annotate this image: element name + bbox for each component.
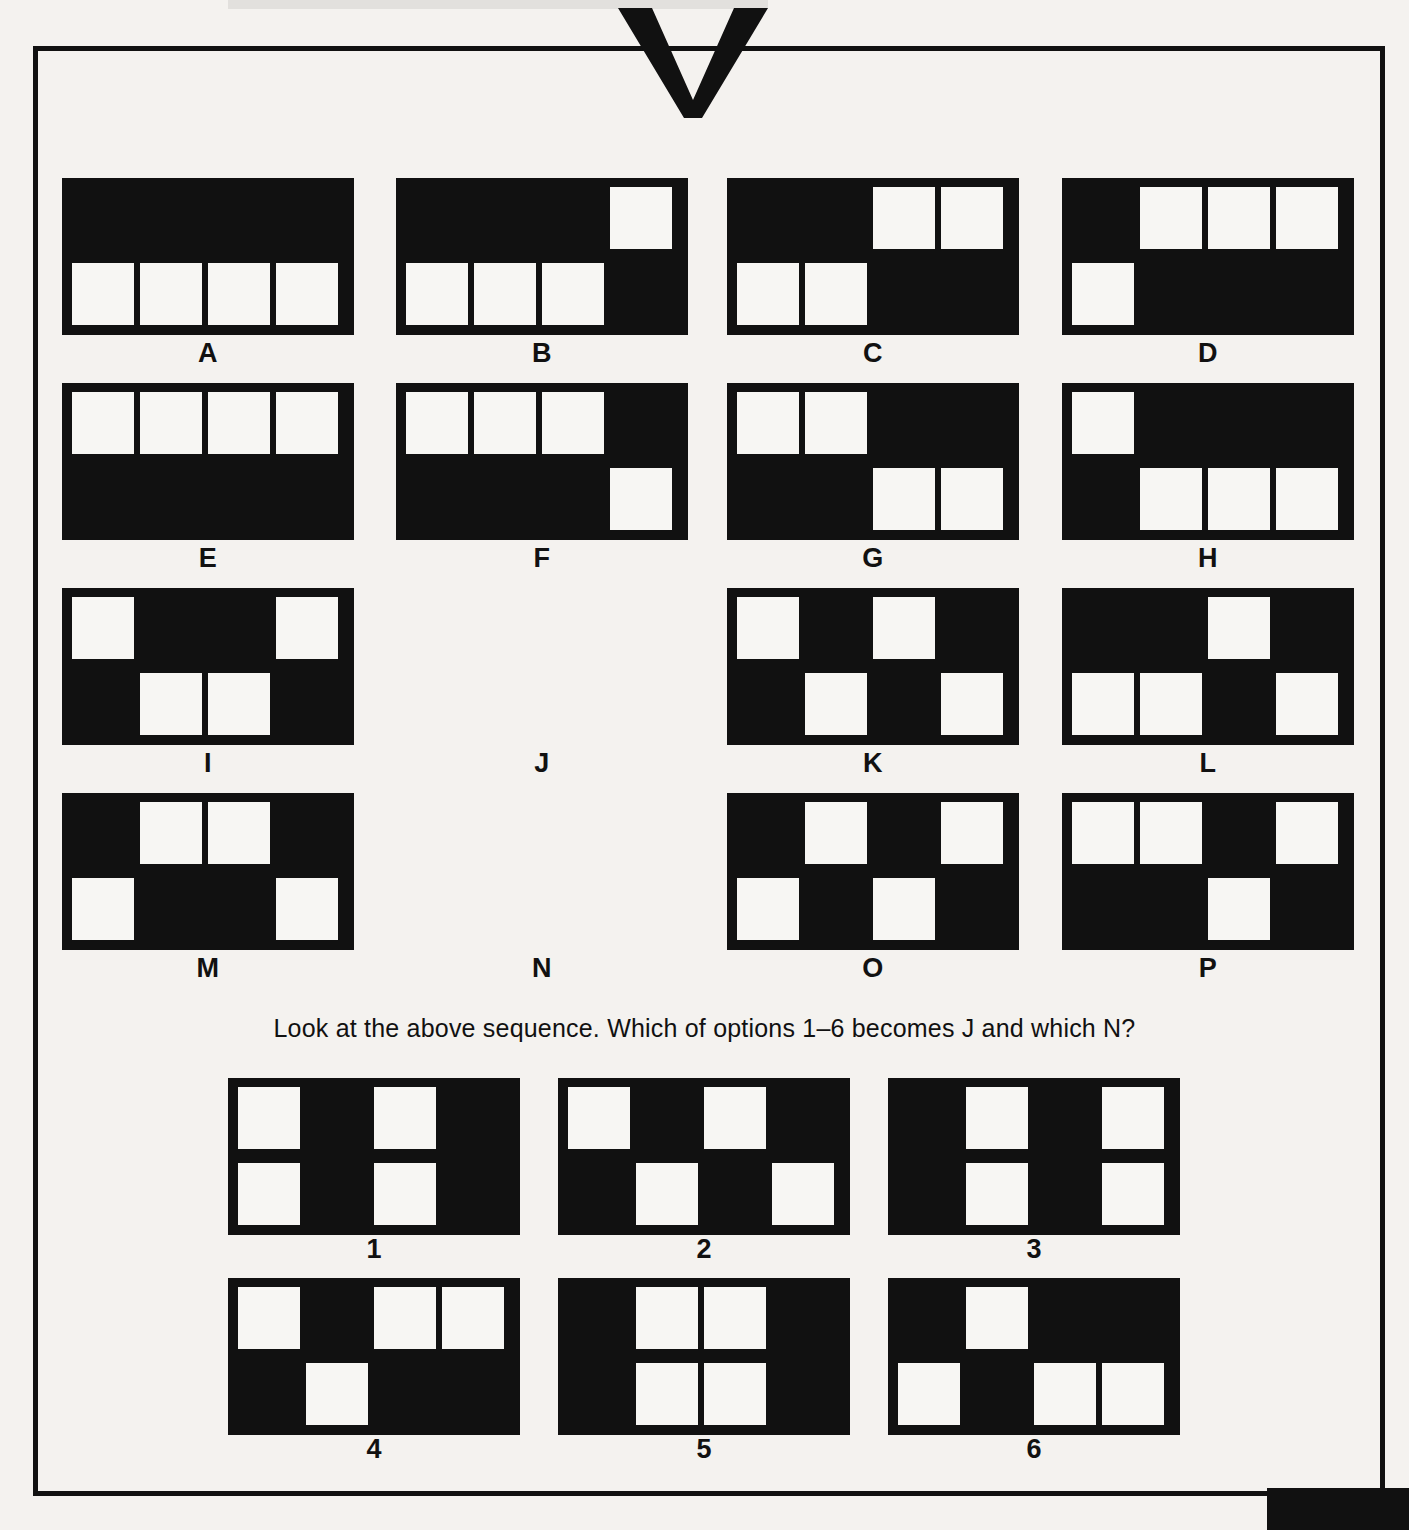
sequence-item-o: O xyxy=(727,793,1022,998)
sequence-k-panel xyxy=(727,588,1019,745)
option-item-6[interactable]: 6 xyxy=(888,1278,1180,1478)
sequence-label-f: F xyxy=(396,543,688,574)
cell-r2-c2 xyxy=(140,263,202,325)
puzzle-content: ABCDEFGHIJKLMNOP Look at the above seque… xyxy=(0,0,1409,1530)
question-text: Look at the above sequence. Which of opt… xyxy=(0,1014,1409,1043)
sequence-item-f: F xyxy=(396,383,691,588)
cell-r2-c4 xyxy=(276,263,338,325)
sequence-label-o: O xyxy=(727,953,1019,984)
cell-r2-c3 xyxy=(1034,1363,1096,1425)
cell-r2-c4 xyxy=(941,468,1003,530)
option-item-1[interactable]: 1 xyxy=(228,1078,520,1278)
sequence-f-panel xyxy=(396,383,688,540)
cell-r2-c3 xyxy=(1208,878,1270,940)
cell-r1-c4 xyxy=(941,802,1003,864)
cell-r1-c1 xyxy=(238,1287,300,1349)
cell-r2-c2 xyxy=(805,263,867,325)
cell-r2-c3 xyxy=(873,468,935,530)
sequence-o-panel xyxy=(727,793,1019,950)
sequence-item-p: P xyxy=(1062,793,1357,998)
cell-r1-c2 xyxy=(805,802,867,864)
sequence-item-d: D xyxy=(1062,178,1357,383)
cell-r2-c3 xyxy=(374,1163,436,1225)
option-2-panel xyxy=(558,1078,850,1235)
sequence-item-b: B xyxy=(396,178,691,383)
cell-r1-c4 xyxy=(1276,802,1338,864)
option-label-1: 1 xyxy=(228,1234,520,1265)
option-item-4[interactable]: 4 xyxy=(228,1278,520,1478)
cell-r1-c1 xyxy=(1072,392,1134,454)
cell-r1-c3 xyxy=(208,392,270,454)
sequence-item-m: M xyxy=(62,793,357,998)
option-label-2: 2 xyxy=(558,1234,850,1265)
sequence-e-panel xyxy=(62,383,354,540)
option-item-3[interactable]: 3 xyxy=(888,1078,1180,1278)
option-4-panel xyxy=(228,1278,520,1435)
cell-r2-c4 xyxy=(1276,673,1338,735)
cell-r2-c4 xyxy=(276,878,338,940)
option-3-panel xyxy=(888,1078,1180,1235)
sequence-label-g: G xyxy=(727,543,1019,574)
cell-r2-c3 xyxy=(208,673,270,735)
cell-r2-c1 xyxy=(238,1163,300,1225)
sequence-label-c: C xyxy=(727,338,1019,369)
cell-r2-c2 xyxy=(474,263,536,325)
cell-r1-c4 xyxy=(610,187,672,249)
sequence-label-h: H xyxy=(1062,543,1354,574)
cell-r1-c3 xyxy=(704,1287,766,1349)
cell-r2-c4 xyxy=(610,468,672,530)
cell-r2-c4 xyxy=(1102,1163,1164,1225)
option-item-2[interactable]: 2 xyxy=(558,1078,850,1278)
sequence-h-panel xyxy=(1062,383,1354,540)
cell-r2-c1 xyxy=(737,263,799,325)
cell-r2-c1 xyxy=(1072,263,1134,325)
cell-r1-c3 xyxy=(873,187,935,249)
option-label-3: 3 xyxy=(888,1234,1180,1265)
sequence-item-e: E xyxy=(62,383,357,588)
sequence-n-panel xyxy=(396,793,688,950)
cell-r2-c1 xyxy=(737,878,799,940)
cell-r1-c1 xyxy=(737,597,799,659)
corner-block xyxy=(1267,1488,1409,1530)
sequence-label-d: D xyxy=(1062,338,1354,369)
option-5-panel xyxy=(558,1278,850,1435)
options-grid: 123456 xyxy=(0,1070,1409,1490)
cell-r1-c4 xyxy=(1102,1087,1164,1149)
option-item-5[interactable]: 5 xyxy=(558,1278,850,1478)
cell-r1-c2 xyxy=(140,802,202,864)
option-label-5: 5 xyxy=(558,1434,850,1465)
cell-r1-c3 xyxy=(1208,187,1270,249)
cell-r2-c2 xyxy=(306,1363,368,1425)
cell-r2-c4 xyxy=(1102,1363,1164,1425)
cell-r1-c2 xyxy=(966,1087,1028,1149)
cell-r2-c2 xyxy=(1140,468,1202,530)
cell-r2-c1 xyxy=(898,1363,960,1425)
option-label-4: 4 xyxy=(228,1434,520,1465)
sequence-p-panel xyxy=(1062,793,1354,950)
cell-r2-c4 xyxy=(941,673,1003,735)
cell-r2-c3 xyxy=(873,878,935,940)
sequence-item-c: C xyxy=(727,178,1022,383)
cell-r2-c1 xyxy=(406,263,468,325)
cell-r1-c2 xyxy=(1140,802,1202,864)
cell-r1-c2 xyxy=(966,1287,1028,1349)
cell-r1-c1 xyxy=(72,392,134,454)
sequence-item-h: H xyxy=(1062,383,1357,588)
sequence-item-k: K xyxy=(727,588,1022,793)
cell-r1-c1 xyxy=(72,597,134,659)
cell-r1-c2 xyxy=(1140,187,1202,249)
sequence-c-panel xyxy=(727,178,1019,335)
cell-r1-c1 xyxy=(406,392,468,454)
sequence-item-l: L xyxy=(1062,588,1357,793)
cell-r1-c1 xyxy=(737,392,799,454)
sequence-item-i: I xyxy=(62,588,357,793)
option-1-panel xyxy=(228,1078,520,1235)
sequence-item-g: G xyxy=(727,383,1022,588)
cell-r1-c4 xyxy=(276,597,338,659)
cell-r2-c3 xyxy=(542,263,604,325)
sequence-label-b: B xyxy=(396,338,688,369)
cell-r1-c4 xyxy=(941,187,1003,249)
cell-r2-c2 xyxy=(140,673,202,735)
sequence-label-n: N xyxy=(396,953,688,984)
cell-r1-c2 xyxy=(140,392,202,454)
